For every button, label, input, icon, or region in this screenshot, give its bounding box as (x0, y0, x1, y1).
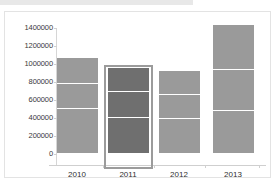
y-axis-tick-label: 200000 (5, 132, 53, 140)
y-axis-tick-mark (54, 100, 57, 101)
y-axis-tick-label: 1000000 (5, 60, 53, 68)
bar-segment-2010-segment-3[interactable] (57, 58, 98, 84)
x-axis-tick-label-2012[interactable]: 2012 (154, 170, 204, 179)
y-axis-tick-label: 1200000 (5, 42, 53, 50)
bar-segment-2011-segment-3[interactable] (108, 68, 149, 92)
y-axis-tick-label: 400000 (5, 114, 53, 122)
y-axis-tick-label: 800000 (5, 78, 53, 86)
x-axis-tick-label-2011[interactable]: 2011 (103, 170, 153, 179)
bar-segment-2011-segment-2[interactable] (108, 92, 149, 119)
bar-2012[interactable] (159, 71, 200, 153)
bar-segment-2013-segment-1[interactable] (213, 111, 254, 153)
bar-segment-2012-segment-1[interactable] (159, 119, 200, 153)
y-axis-tick-mark (54, 28, 57, 29)
bar-2013[interactable] (213, 25, 254, 153)
x-axis-tick-mark (103, 165, 104, 168)
y-axis-tick-label: 0 (5, 150, 53, 158)
y-axis-tick-mark (54, 118, 57, 119)
y-axis-tick-mark (54, 46, 57, 47)
y-axis: 1400000120000010000008000006000004000002… (5, 12, 53, 183)
y-axis-tick-mark (54, 136, 57, 137)
bar-segment-2012-segment-3[interactable] (159, 71, 200, 95)
x-axis-tick-mark (259, 165, 260, 168)
x-axis-tick-mark (154, 165, 155, 168)
y-axis-tick-mark (54, 64, 57, 65)
bar-segment-2013-segment-3[interactable] (213, 25, 254, 70)
chart-screenshot: 1400000120000010000008000006000004000002… (0, 0, 275, 183)
bar-segment-2011-segment-1[interactable] (108, 118, 149, 153)
bar-2010[interactable] (57, 58, 98, 153)
bar-2011[interactable] (108, 68, 149, 154)
bar-segment-2010-segment-2[interactable] (57, 84, 98, 109)
bar-segment-2010-segment-1[interactable] (57, 109, 98, 153)
y-axis-tick-mark (54, 82, 57, 83)
bar-segment-2012-segment-2[interactable] (159, 95, 200, 119)
bar-segment-2013-segment-2[interactable] (213, 70, 254, 111)
x-axis-tick-mark (205, 165, 206, 168)
y-axis-tick-mark (54, 154, 57, 155)
x-axis-tick-label-2013[interactable]: 2013 (208, 170, 258, 179)
chart-panel[interactable]: 1400000120000010000008000006000004000002… (4, 11, 271, 178)
x-axis-line (49, 165, 266, 166)
y-axis-tick-label: 1400000 (5, 24, 53, 32)
y-axis-tick-label: 600000 (5, 96, 53, 104)
x-axis-tick-label-2010[interactable]: 2010 (52, 170, 102, 179)
